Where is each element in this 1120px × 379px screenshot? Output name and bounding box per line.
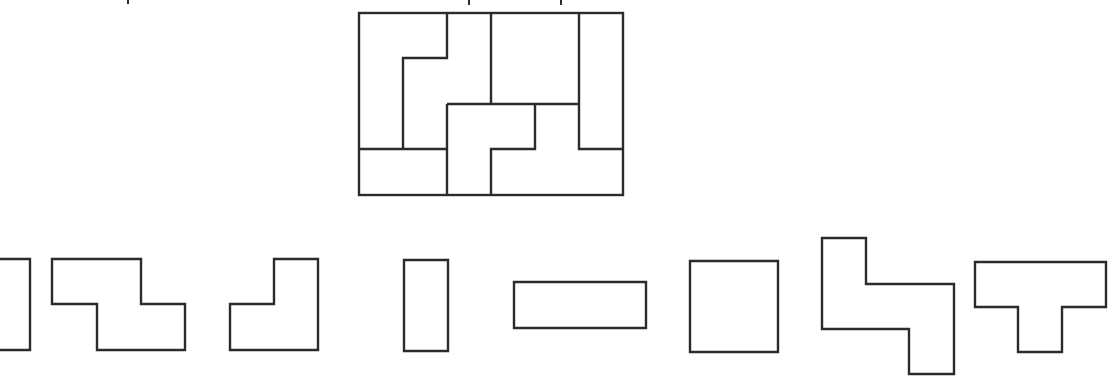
piece-3 (230, 259, 318, 350)
piece-8 (975, 262, 1106, 352)
piece-2 (52, 259, 185, 350)
piece-1 (0, 259, 30, 350)
piece-5 (514, 282, 646, 328)
cropped-caption-descenders (128, 0, 561, 5)
piece-6 (690, 261, 778, 352)
piece-4 (404, 260, 448, 351)
piece-7 (822, 238, 954, 374)
target-board (359, 13, 623, 195)
puzzle-figure (0, 0, 1120, 379)
candidate-pieces (0, 238, 1106, 374)
